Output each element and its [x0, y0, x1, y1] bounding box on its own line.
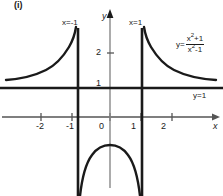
y-tick-label-1: 1	[96, 79, 101, 88]
x-axis-label: x	[213, 122, 218, 131]
y-axis	[107, 9, 114, 188]
y-axis-label: y	[102, 12, 107, 21]
x-tick-label-0: 0	[99, 122, 104, 131]
equation-lhs: y=	[176, 41, 185, 49]
x-tick-label-minus-2: -2	[36, 122, 44, 131]
graph-plot-area	[0, 0, 223, 196]
x-tick-label-2: 2	[161, 122, 166, 131]
y-tick-label-2: 2	[96, 48, 101, 57]
asymptote-right-label: x=1	[129, 19, 142, 27]
equation-denominator: x2-1	[187, 46, 203, 54]
equation-numerator-rest: +1	[194, 34, 203, 43]
equation-fraction: x2+1 x2-1	[186, 35, 204, 55]
equation-denominator-rest: -1	[195, 45, 202, 54]
x-tick-label-minus-1: -1	[66, 122, 74, 131]
x-axis	[2, 113, 220, 121]
equation-annotation: y= x2+1 x2-1	[176, 35, 204, 55]
part-label: (i)	[14, 1, 23, 10]
asymptote-horizontal-label: y=1	[193, 92, 206, 100]
asymptote-left-label: x=-1	[62, 19, 78, 27]
figure-container: (i) x y -2 -1 0 1 2 1 2 x=-1 x=1 y=1 y= …	[0, 0, 223, 196]
curve-left-branch	[6, 27, 76, 80]
x-tick-label-1: 1	[131, 122, 136, 131]
equation-numerator: x2+1	[186, 35, 204, 43]
